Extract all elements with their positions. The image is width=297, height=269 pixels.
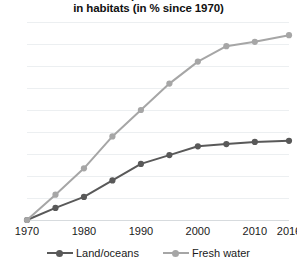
series-group	[27, 22, 289, 220]
data-point-fresh-water-1995	[166, 80, 172, 86]
data-point-land-oceans-1980	[81, 193, 87, 199]
plot-area: 0102030405060708090 19701980199020002010…	[27, 22, 289, 220]
data-point-fresh-water-2010	[252, 38, 258, 44]
x-tick-label-2016: 2016	[277, 225, 297, 237]
data-point-land-oceans-1985	[109, 177, 115, 183]
data-point-fresh-water-1990	[138, 106, 144, 112]
x-tick-label-1970: 1970	[15, 225, 39, 237]
series-land-oceans	[24, 137, 292, 222]
gridline-0	[27, 220, 289, 221]
data-point-fresh-water-1975	[52, 191, 58, 197]
data-point-fresh-water-1980	[81, 165, 87, 171]
data-point-land-oceans-2010	[252, 138, 258, 144]
series-fresh-water	[24, 32, 292, 223]
x-tick-label-1980: 1980	[72, 225, 96, 237]
data-point-land-oceans-2005	[223, 141, 229, 147]
chart-container: Decline of species abundance in habitats…	[0, 0, 297, 269]
data-point-fresh-water-2000	[195, 58, 201, 64]
data-point-fresh-water-1985	[109, 133, 115, 139]
x-tick-label-1990: 1990	[129, 225, 153, 237]
data-point-fresh-water-2005	[223, 43, 229, 49]
data-point-fresh-water-2016	[286, 32, 292, 38]
legend-label-fresh-water: Fresh water	[192, 247, 250, 259]
series-line-fresh-water	[27, 35, 289, 220]
data-point-land-oceans-2000	[195, 143, 201, 149]
legend-marker-icon	[172, 250, 179, 257]
x-tick-label-2000: 2000	[186, 225, 210, 237]
legend-entry-land-oceans[interactable]: Land/oceans	[47, 247, 139, 259]
data-point-land-oceans-1975	[52, 204, 58, 210]
data-point-land-oceans-1995	[166, 152, 172, 158]
chart-title: Decline of species abundance in habitats…	[0, 0, 297, 14]
legend-swatch-land-oceans	[47, 249, 73, 258]
x-tick-label-2010: 2010	[243, 225, 267, 237]
chart-legend: Land/oceansFresh water	[0, 247, 297, 259]
legend-swatch-fresh-water	[163, 249, 189, 258]
data-point-fresh-water-1970	[24, 216, 30, 222]
data-point-land-oceans-2016	[286, 137, 292, 143]
legend-label-land-oceans: Land/oceans	[76, 247, 139, 259]
series-line-land-oceans	[27, 140, 289, 219]
legend-marker-icon	[56, 250, 63, 257]
data-point-land-oceans-1990	[138, 160, 144, 166]
legend-entry-fresh-water[interactable]: Fresh water	[163, 247, 250, 259]
